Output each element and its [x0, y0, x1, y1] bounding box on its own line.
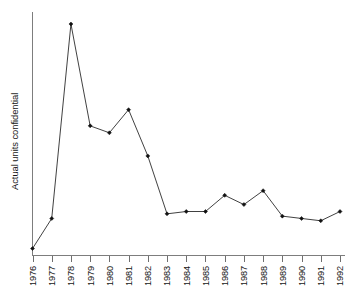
x-axis-tick-label: 1977 — [47, 266, 57, 286]
x-axis-tick-label: 1987 — [239, 266, 249, 286]
data-point-marker — [69, 22, 73, 26]
x-axis-tick-label: 1991 — [316, 266, 326, 286]
x-axis-tick-label: 1992 — [335, 266, 345, 286]
x-axis-tick-label: 1978 — [66, 266, 76, 286]
y-axis-title: Actual units confidential — [9, 93, 20, 190]
x-axis-tick-label: 1979 — [86, 266, 96, 286]
x-axis-tick-label: 1984 — [182, 266, 192, 286]
x-axis-tick-label: 1982 — [143, 266, 153, 286]
data-point-marker — [165, 212, 169, 216]
x-axis-tick-label: 1980 — [105, 266, 115, 286]
x-axis-ticks — [34, 256, 341, 262]
x-axis-tick-label: 1983 — [162, 266, 172, 286]
data-point-marker — [319, 219, 323, 223]
data-point-marker — [88, 124, 92, 128]
x-axis-tick-label: 1988 — [259, 266, 269, 286]
data-point-marker — [146, 154, 150, 158]
x-axis-tick-labels: 1976197719781979198019811982198319841985… — [28, 266, 346, 286]
x-axis-tick-label: 1981 — [124, 266, 134, 286]
data-point-marker — [184, 210, 188, 214]
chart-container: 1976197719781979198019811982198319841985… — [0, 0, 356, 300]
x-axis-tick-label: 1989 — [278, 266, 288, 286]
data-point-marker — [300, 216, 304, 220]
line-chart-plot: 1976197719781979198019811982198319841985… — [0, 0, 356, 300]
x-axis-tick-label: 1976 — [28, 266, 38, 286]
x-axis-tick-label: 1986 — [220, 266, 230, 286]
x-axis-tick-label: 1990 — [297, 266, 307, 286]
x-axis-tick-label: 1985 — [201, 266, 211, 286]
data-series-line — [33, 24, 341, 249]
data-point-marker — [338, 210, 342, 214]
